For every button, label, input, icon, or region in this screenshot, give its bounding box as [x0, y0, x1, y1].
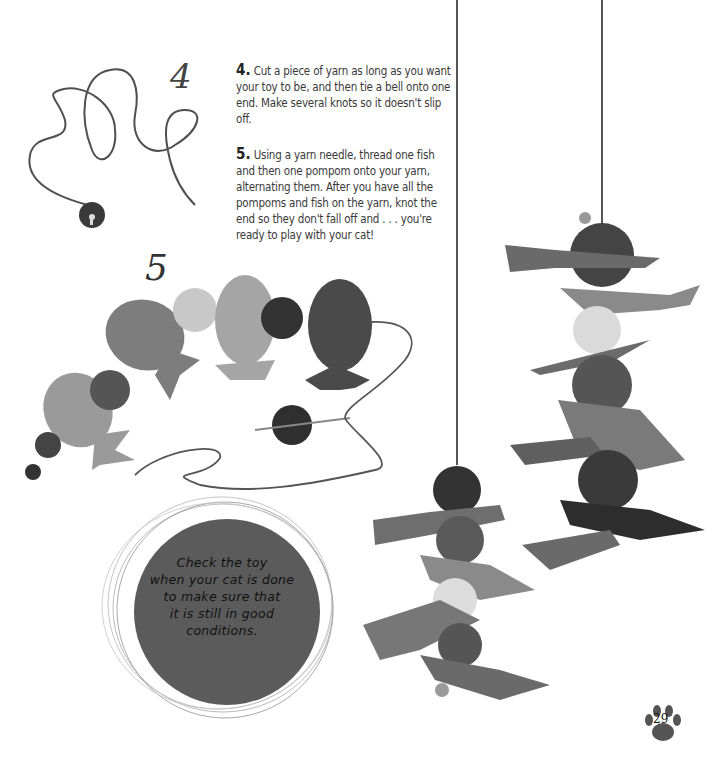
callout-line: conditions. [147, 622, 297, 639]
page-number: 29 [653, 712, 668, 726]
callout-line: it is still in good [147, 605, 297, 622]
pompom-icon [261, 297, 303, 339]
callout-text: Check the toy when your cat is done to m… [147, 554, 297, 639]
pompom-icon [90, 370, 130, 410]
pompom-icon [35, 432, 61, 458]
callout-line: to make sure that [147, 588, 297, 605]
callout-line: Check the toy [147, 554, 297, 571]
step-4-number: 4. [236, 61, 251, 79]
cat-toy-left [363, 466, 550, 700]
step-5-number: 5. [236, 145, 251, 163]
hanging-toys-photo [360, 0, 722, 700]
cat-toy-right [505, 212, 705, 570]
step4-number: 4 [169, 56, 192, 96]
pompom-icon [173, 288, 217, 332]
bell-icon [25, 464, 41, 480]
step5-number: 5 [145, 247, 168, 288]
callout-line: when your cat is done [147, 571, 297, 588]
step4-illustration: 4 [0, 20, 230, 240]
